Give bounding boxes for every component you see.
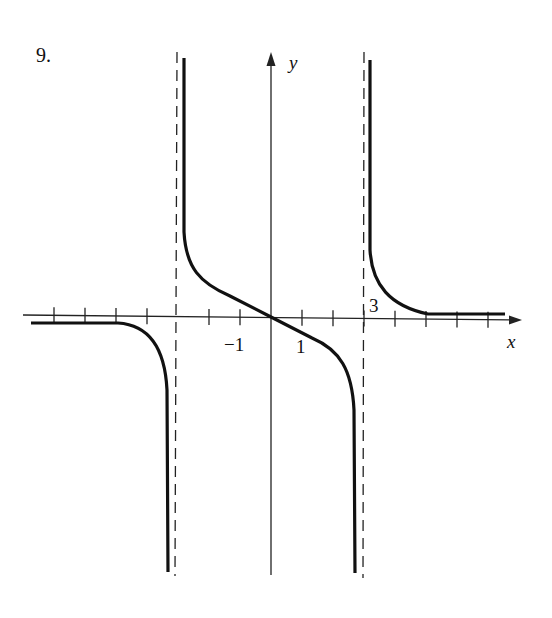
asymptote-left (175, 52, 177, 576)
x-axis-label: x (507, 331, 515, 353)
y-axis-arrow-icon (267, 52, 276, 66)
y-axis-label: y (289, 52, 297, 74)
curve-right-branch (370, 60, 505, 314)
tick-label-1: 1 (296, 336, 306, 358)
tick-label-neg1: −1 (224, 334, 244, 356)
graph (0, 0, 552, 618)
x-axis-arrow-icon (509, 316, 522, 325)
tick-label-3: 3 (369, 295, 379, 317)
curve-left-branch (31, 323, 168, 572)
